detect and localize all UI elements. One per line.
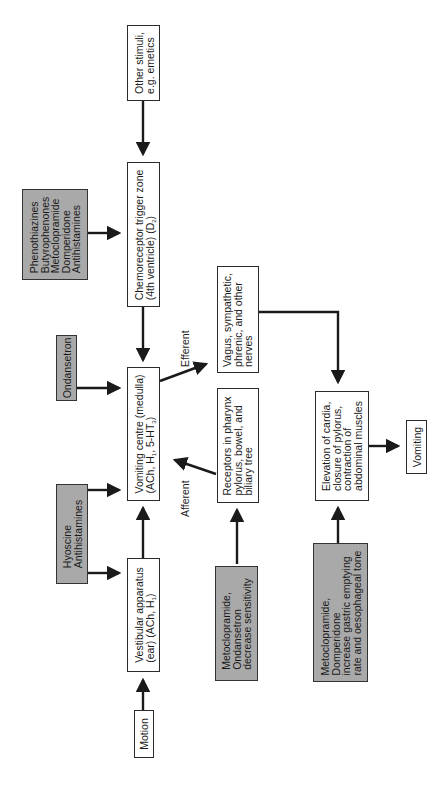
node-text: (ACh, H1, 5-HT3) [144, 374, 155, 493]
drug-name: increase gastric emptying [341, 550, 352, 675]
drug-name: Domperidone [330, 550, 341, 675]
arrow-afferent [175, 460, 216, 474]
subscript: 1 [150, 597, 156, 600]
text-part: (ACh, H [143, 456, 155, 493]
node-vomiting-centre: Vomiting centre (medulla) (ACh, H1, 5-HT… [127, 367, 160, 501]
subscript: 1 [150, 453, 156, 456]
subscript: 3 [150, 420, 156, 423]
drug-name: Antihistamines [72, 500, 83, 568]
drug-name: Metoclopramide [50, 196, 61, 272]
drug-name: Ondansetron [231, 578, 242, 670]
node-text: Vomiting [411, 427, 422, 467]
text-part: ) [143, 215, 155, 219]
text-part: (4th ventricle) (D [143, 222, 155, 300]
node-text: abdominal muscles [353, 401, 364, 491]
node-text: Vestibular apparatus [133, 567, 144, 663]
drug-box-hyoscine: Hyoscine Antihistamines [56, 484, 88, 584]
node-peripheral-receptors: Receptors in pharynx pylorus, bowel, and… [217, 388, 259, 503]
node-vestibular-apparatus: Vestibular apparatus (ear) (ACh, H1) [127, 558, 160, 672]
text-part: ) [143, 417, 155, 421]
node-text: contraction of [342, 401, 353, 491]
drug-name: decrease sensitivity [242, 578, 253, 670]
node-text: Receptors in pharynx [222, 396, 233, 495]
node-text: Vagus, sympathetic, [222, 273, 233, 367]
drug-name: Metoclopramide, [221, 578, 232, 670]
node-vagus-nerves: Vagus, sympathetic, phrenic, and other n… [217, 266, 259, 373]
node-motion: Motion [134, 710, 154, 758]
drug-box-ondansetron: Ondansetron [56, 335, 77, 401]
node-text: Chemoreceptor trigger zone [133, 169, 144, 300]
node-text: Other stimuli, [133, 32, 144, 94]
label-efferent: Efferent [179, 330, 191, 367]
drug-name: Phenothiazines [29, 196, 40, 272]
drug-box-ctz-antagonists: Phenothiazines Butyrophenones Metoclopra… [22, 189, 88, 280]
arrow-vagus-to-elevation [258, 312, 338, 382]
drug-box-decrease-sensitivity: Metoclopramide, Ondansetron decrease sen… [215, 566, 258, 681]
node-text: e.g. emetics [144, 32, 155, 94]
text-part: , 5-HT [143, 424, 155, 453]
node-chemoreceptor-trigger-zone: Chemoreceptor trigger zone (4th ventricl… [127, 162, 160, 307]
node-vomiting: Vomiting [406, 420, 427, 474]
vomiting-pathway-diagram: Other stimuli, e.g. emetics Chemorecepto… [0, 0, 440, 790]
text-part: ) [143, 594, 155, 598]
node-text: Vomiting centre (medulla) [133, 374, 144, 493]
text-part: (ear) (ACh, H [143, 600, 155, 662]
node-text: Motion [139, 718, 150, 750]
drug-name: Metoclopramide, [320, 550, 331, 675]
drug-name: rate and oesophageal tone [351, 550, 362, 675]
node-text: Elevation of cardia, [321, 401, 332, 491]
node-text: (4th ventricle) (D2) [144, 169, 155, 300]
label-afferent: Afferent [179, 480, 191, 517]
drug-name: Hyoscine [62, 500, 73, 568]
node-other-stimuli: Other stimuli, e.g. emetics [127, 25, 160, 101]
drug-box-gastric-emptying: Metoclopramide, Domperidone increase gas… [313, 543, 368, 682]
node-text: (ear) (ACh, H1) [144, 567, 155, 663]
node-text: biliary tree [243, 396, 254, 495]
drug-name: Antihistamines [71, 196, 82, 272]
node-text: nerves [243, 273, 254, 367]
drug-name: Ondansetron [61, 338, 72, 399]
node-elevation-of-cardia: Elevation of cardia, closure of pylorus,… [315, 391, 369, 501]
